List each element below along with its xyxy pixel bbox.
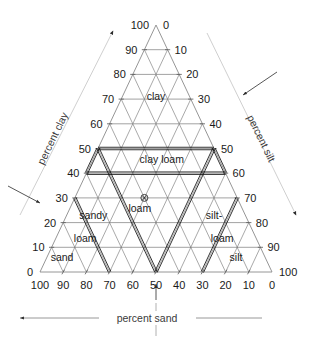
class-label-clay-loam: clay loam	[140, 153, 185, 165]
tick-label-clay-0: 0	[27, 266, 33, 278]
tick-label-sand-30: 30	[196, 279, 208, 291]
tick-label-clay-60: 60	[90, 118, 102, 130]
tick-label-silt-60: 60	[233, 167, 245, 179]
tick-label-clay-10: 10	[32, 241, 44, 253]
ternary-diagram-canvas: 0102030405060708090100010203040506070809…	[0, 0, 314, 340]
tick-label-clay-30: 30	[56, 192, 68, 204]
tick-label-sand-60: 60	[127, 279, 139, 291]
axis-title-percent-clay: percent clay	[35, 110, 71, 167]
tick-label-silt-20: 20	[186, 68, 198, 80]
axis-title-percent-silt: percent silt	[245, 113, 278, 164]
class-label-loam: loam	[128, 202, 151, 214]
tick-label-silt-100: 100	[279, 266, 297, 278]
grid-line-silt-90	[249, 247, 261, 272]
tick-label-clay-100: 100	[131, 19, 149, 31]
soil-class-labels: clayclay loamsandyloamloamsilt-loamsands…	[51, 90, 243, 263]
tick-label-clay-50: 50	[79, 143, 91, 155]
tick-label-clay-40: 40	[67, 167, 79, 179]
tick-label-silt-70: 70	[244, 192, 256, 204]
class-label-sandy-loam-1: sandy	[79, 209, 108, 221]
tick-label-sand-40: 40	[173, 279, 185, 291]
class-label-silt-loam-1: silt-	[206, 209, 223, 221]
class-label-clay: clay	[147, 90, 166, 102]
clay-value-pointer	[8, 186, 40, 203]
tick-label-sand-90: 90	[57, 279, 69, 291]
tick-label-silt-10: 10	[175, 44, 187, 56]
tick-label-silt-90: 90	[267, 241, 279, 253]
soil-texture-triangle-figure: 0102030405060708090100010203040506070809…	[0, 0, 314, 340]
tick-label-sand-0: 0	[269, 279, 275, 291]
tick-label-clay-70: 70	[102, 93, 114, 105]
tick-label-silt-30: 30	[198, 93, 210, 105]
tick-label-sand-100: 100	[31, 279, 49, 291]
grid-line-sand-30	[121, 99, 202, 272]
tick-label-silt-50: 50	[221, 143, 233, 155]
class-label-sandy-loam-2: loam	[74, 232, 97, 244]
tick-label-clay-20: 20	[44, 217, 56, 229]
tick-label-silt-0: 0	[163, 19, 169, 31]
tick-label-sand-10: 10	[243, 279, 255, 291]
tick-label-silt-80: 80	[256, 217, 268, 229]
class-label-silt: silt	[230, 251, 243, 263]
class-label-silt-loam-2: loam	[211, 232, 234, 244]
tick-label-sand-70: 70	[103, 279, 115, 291]
tick-label-silt-40: 40	[209, 118, 221, 130]
tick-label-sand-80: 80	[80, 279, 92, 291]
grid-line-silt-30	[110, 99, 191, 272]
silt-value-pointer	[243, 72, 277, 95]
tick-label-sand-20: 20	[219, 279, 231, 291]
tick-label-clay-90: 90	[125, 44, 137, 56]
class-label-sand: sand	[51, 251, 74, 263]
tick-label-clay-80: 80	[114, 68, 126, 80]
axis-title-percent-sand: percent sand	[117, 312, 178, 324]
